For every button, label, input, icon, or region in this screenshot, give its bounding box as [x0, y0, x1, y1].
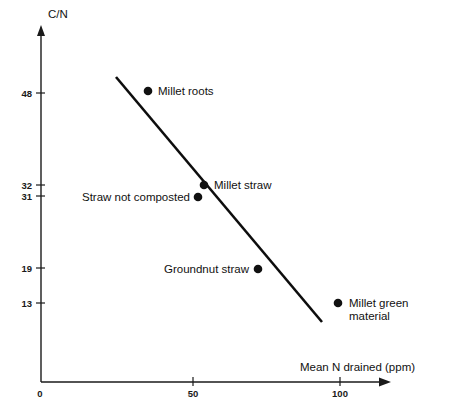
y-axis-title: C/N: [48, 8, 68, 20]
y-axis: [37, 25, 45, 382]
data-label-millet-straw: Millet straw: [214, 179, 272, 191]
y-tick-label-19: 19: [21, 263, 32, 274]
data-label-millet-green-material-line2: material: [349, 310, 390, 322]
y-tick-label-48: 48: [21, 88, 32, 99]
data-label-straw-not-composted: Straw not composted: [82, 191, 190, 203]
x-tick-label-50: 50: [188, 388, 199, 399]
x-tick-label-100: 100: [332, 388, 348, 399]
data-point-millet-straw: [200, 181, 209, 190]
data-label-millet-green-material-line1: Millet green: [349, 297, 408, 309]
y-tick-label-31: 31: [21, 191, 32, 202]
data-point-groundnut-straw: [254, 265, 263, 274]
x-tick-label-0: 0: [37, 388, 42, 399]
y-tick-label-32: 32: [21, 180, 32, 191]
x-axis-title: Mean N drained (ppm): [300, 361, 415, 373]
data-point-millet-roots: [144, 87, 153, 96]
x-axis: [41, 378, 391, 387]
chart-canvas: 48 32 31 19 13 0 50 100 C/N Mean N drain…: [0, 0, 450, 419]
y-axis-arrow-icon: [37, 25, 45, 36]
scatter-chart: 48 32 31 19 13 0 50 100 C/N Mean N drain…: [0, 0, 450, 419]
y-tick-label-13: 13: [21, 298, 32, 309]
data-label-millet-roots: Millet roots: [158, 85, 214, 97]
x-axis-arrow-icon: [379, 378, 391, 387]
data-label-groundnut-straw: Groundnut straw: [164, 263, 250, 275]
data-point-straw-not-composted: [194, 193, 203, 202]
data-point-millet-green-material: [334, 299, 343, 308]
